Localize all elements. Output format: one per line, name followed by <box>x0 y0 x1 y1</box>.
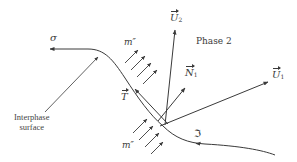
n1-label: N1 <box>185 68 198 78</box>
u1-subscript: 1 <box>280 73 284 80</box>
u2-subscript: 2 <box>178 16 182 23</box>
curvature-label: ℑ <box>194 129 201 139</box>
sigma-label: σ <box>50 33 57 43</box>
mass-flux-arrows-bottom <box>133 119 163 154</box>
phase2-label: Phase 2 <box>196 37 232 46</box>
interphase-diagram: σ m″ Phase 2 U2 N1 U1 T Interphase surfa… <box>0 0 297 162</box>
u2-symbol: U <box>170 13 178 23</box>
mass-flux-bottom-label: m″ <box>122 141 134 150</box>
n1-vector <box>158 88 185 121</box>
t-label: T <box>121 92 128 102</box>
interphase-label-line2: surface <box>14 123 49 132</box>
tangent-arrow <box>135 89 168 124</box>
interphase-leader <box>45 57 98 112</box>
n1-symbol: N <box>185 68 194 78</box>
interphase-surface-label: Interphase surface <box>14 113 49 131</box>
u1-vector <box>160 82 268 126</box>
n1-subscript: 1 <box>194 71 198 78</box>
u1-symbol: U <box>272 70 280 80</box>
u1-label: U1 <box>272 70 284 80</box>
t-symbol: T <box>121 92 128 102</box>
u2-label: U2 <box>170 13 182 23</box>
interphase-label-line1: Interphase <box>14 113 49 122</box>
mass-flux-top-label: m″ <box>124 38 136 47</box>
diagram-drawing <box>0 0 297 162</box>
mass-flux-arrows-top <box>125 50 157 84</box>
interphase-surface-curve <box>88 49 275 155</box>
